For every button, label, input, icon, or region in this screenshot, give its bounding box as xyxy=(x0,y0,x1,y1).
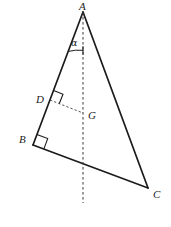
geometry-figure: A B C D G α xyxy=(0,0,171,227)
dashed-segment-DG xyxy=(50,100,83,113)
geometry-canvas xyxy=(0,0,171,227)
vertex-label-C: C xyxy=(153,189,160,200)
side-AB xyxy=(33,12,83,145)
vertex-label-A: A xyxy=(79,1,86,12)
side-AC xyxy=(83,12,148,188)
side-BC xyxy=(33,145,148,188)
angle-arc-alpha xyxy=(68,50,83,51)
vertex-label-G: G xyxy=(88,110,96,121)
vertex-label-B: B xyxy=(19,134,26,145)
angle-label-alpha: α xyxy=(71,38,77,48)
vertex-label-D: D xyxy=(36,94,44,105)
